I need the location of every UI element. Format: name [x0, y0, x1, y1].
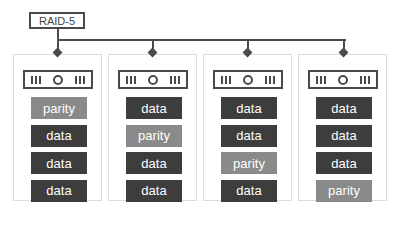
drive-vent-icon — [170, 76, 180, 84]
hard-drive-icon — [23, 70, 93, 89]
parity-block: parity — [31, 97, 87, 119]
raid-level-label: RAID-5 — [29, 12, 85, 29]
data-block: data — [126, 97, 182, 119]
drive-led-icon — [338, 75, 348, 85]
hard-drive-icon — [118, 70, 188, 89]
data-block: data — [31, 152, 87, 174]
data-block: data — [31, 125, 87, 147]
parity-block: parity — [221, 152, 277, 174]
disk-column-2: dataparitydatadata — [108, 54, 197, 201]
disk-column-1: paritydatadatadata — [13, 54, 102, 201]
data-block: data — [126, 180, 182, 202]
connector-horizontal — [57, 39, 346, 41]
disk-column-3: datadataparitydata — [203, 54, 292, 201]
drive-vent-icon — [316, 76, 326, 84]
hard-drive-icon — [308, 70, 378, 89]
drive-led-icon — [148, 75, 158, 85]
drive-vent-icon — [360, 76, 370, 84]
data-block: data — [31, 180, 87, 202]
parity-block: parity — [316, 180, 372, 202]
hard-drive-icon — [213, 70, 283, 89]
drive-led-icon — [53, 75, 63, 85]
data-block: data — [316, 97, 372, 119]
drive-vent-icon — [221, 76, 231, 84]
drive-led-icon — [243, 75, 253, 85]
drive-vent-icon — [75, 76, 85, 84]
data-block: data — [221, 97, 277, 119]
data-block: data — [316, 125, 372, 147]
drive-vent-icon — [265, 76, 275, 84]
parity-block: parity — [126, 125, 182, 147]
data-block: data — [221, 125, 277, 147]
drive-vent-icon — [126, 76, 136, 84]
data-block: data — [221, 180, 277, 202]
data-block: data — [126, 152, 182, 174]
drive-vent-icon — [31, 76, 41, 84]
disk-column-4: datadatadataparity — [298, 54, 387, 201]
data-block: data — [316, 152, 372, 174]
